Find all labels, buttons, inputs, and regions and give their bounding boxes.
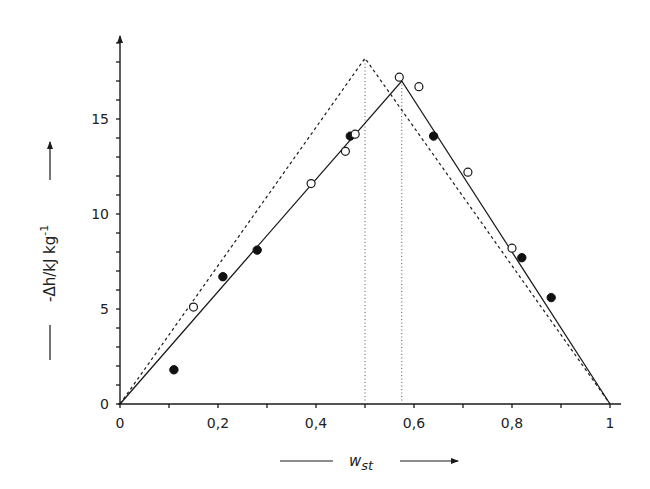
x-tick-labels: 00,20,40,60,81 [116,415,615,431]
filled-data-point [253,246,261,254]
filled-circle-markers [170,132,556,374]
open-data-point [508,244,516,252]
x-axis-label-group: wst [280,452,458,473]
x-tick-label: 0,2 [207,415,229,431]
y-tick-label: 10 [91,206,109,222]
open-data-point [395,73,403,81]
open-data-point [190,303,198,311]
chart: 00,20,40,60,81 051015 -Δh/kJ kg-1 wst [0,0,650,489]
filled-data-point [429,132,437,140]
x-tick-label: 0,4 [305,415,327,431]
axes [118,36,621,404]
dashed-ideal-line [120,58,610,404]
vertical-dotted-lines [365,58,402,404]
filled-data-point [547,293,555,301]
x-tick-label: 0,6 [403,415,425,431]
open-circle-markers [190,73,517,311]
open-data-point [307,180,315,188]
open-data-point [351,130,359,138]
x-axis-label: wst [349,452,374,473]
filled-data-point [518,254,526,262]
open-data-point [415,83,423,91]
open-data-point [464,168,472,176]
open-data-point [341,147,349,155]
y-tick-label: 15 [91,111,109,127]
y-axis-label: -Δh/kJ kg-1 [38,225,59,302]
y-tick-label: 0 [100,396,109,412]
x-tick-label: 1 [606,415,615,431]
x-tick-label: 0 [116,415,125,431]
y-axis-label-group: -Δh/kJ kg-1 [38,142,59,360]
y-tick-labels: 051015 [91,111,109,412]
filled-data-point [219,273,227,281]
y-tick-label: 5 [100,301,109,317]
x-tick-label: 0,8 [501,415,523,431]
filled-data-point [170,366,178,374]
